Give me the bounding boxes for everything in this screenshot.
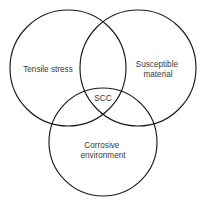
label-susceptible-material-line-2: material: [143, 70, 172, 79]
label-susceptible-material-line-1: Susceptible: [136, 60, 179, 69]
label-susceptible-material: Susceptible material: [136, 60, 181, 79]
venn-diagram: Tensile stress Susceptible material SCC …: [0, 0, 205, 214]
label-scc-intersection: SCC: [94, 93, 112, 103]
venn-diagram-canvas: Tensile stress Susceptible material SCC …: [0, 0, 205, 214]
label-corrosive-environment-line-2: environment: [80, 151, 126, 160]
label-tensile-stress-line-1: Tensile stress: [23, 65, 73, 74]
label-tensile-stress: Tensile stress: [23, 65, 73, 74]
label-corrosive-environment: Corrosive environment: [80, 141, 126, 160]
label-corrosive-environment-line-1: Corrosive: [84, 141, 119, 150]
label-scc-text: SCC: [94, 93, 112, 103]
